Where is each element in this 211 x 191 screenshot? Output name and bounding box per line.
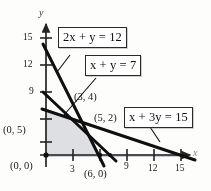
x-tick-label-12: 12	[148, 164, 158, 174]
x-tick-label-9: 9	[124, 162, 129, 172]
point-label-6-0: (6, 0)	[84, 169, 107, 180]
equation-text-1: 2x + y = 12	[63, 30, 122, 44]
equation-box-x-plus-3y-15[interactable]: x + 3y = 15	[124, 107, 193, 128]
equation-box-2x-plus-y-12[interactable]: 2x + y = 12	[58, 27, 127, 48]
point-label-0-5: (0, 5)	[3, 125, 26, 136]
point-label-5-2: (5, 2)	[94, 113, 117, 124]
x-tick-label-15: 15	[175, 164, 185, 174]
y-tick-label-9: 9	[29, 87, 34, 97]
y-tick-label-15: 15	[23, 33, 33, 43]
x-axis-label: x	[193, 148, 197, 158]
x-tick-label-3: 3	[70, 165, 75, 175]
point-label-0-0: (0, 0)	[10, 161, 33, 172]
linear-programming-figure: 2x + y = 12 x + y = 7 x + 3y = 15 y x 15…	[0, 0, 211, 191]
feasible-region	[46, 110, 100, 155]
equation-text-2: x + y = 7	[90, 58, 136, 72]
point-label-3-4: (3, 4)	[74, 92, 97, 103]
y-axis-label: y	[39, 8, 43, 18]
equation-box-x-plus-y-7[interactable]: x + y = 7	[85, 55, 141, 76]
equation-text-3: x + 3y = 15	[129, 110, 188, 124]
y-tick-label-12: 12	[23, 60, 33, 70]
